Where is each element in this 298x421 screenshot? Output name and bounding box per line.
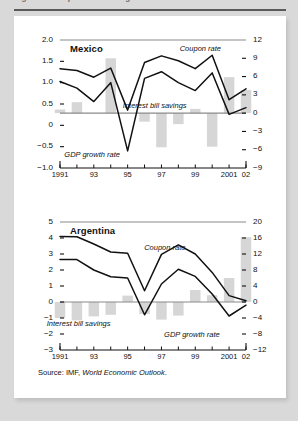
x-axis-tick-label: 95 bbox=[114, 352, 142, 361]
bar-interest-bill-savings bbox=[190, 109, 200, 113]
left-axis-tick-label: 2.0 bbox=[14, 35, 53, 44]
left-axis-tick-label: 3 bbox=[14, 249, 53, 258]
annotation-coupon-rate: Coupon rate bbox=[144, 243, 185, 252]
right-axis-tick-label: 8 bbox=[253, 265, 287, 274]
annotation-coupon-rate: Coupon rate bbox=[180, 44, 221, 53]
annotation-interest-bill-savings: Interest bill savings bbox=[47, 319, 111, 328]
chart-title-argentina: Argentina bbox=[70, 225, 115, 236]
bar-interest-bill-savings bbox=[156, 113, 166, 147]
source-prefix: Source: IMF, bbox=[38, 368, 80, 377]
bar-interest-bill-savings bbox=[122, 296, 132, 302]
chart-title-mexico: Mexico bbox=[70, 43, 103, 54]
left-axis-tick-label: 0 bbox=[14, 120, 53, 129]
bar-interest-bill-savings bbox=[190, 290, 200, 302]
left-axis-tick-label: 4 bbox=[14, 233, 53, 242]
right-axis-tick-label: −8 bbox=[253, 329, 287, 338]
right-axis-tick-label: 0 bbox=[253, 108, 287, 117]
source-publication: World Economic Outlook bbox=[82, 368, 165, 377]
right-axis-tick-label: 6 bbox=[253, 71, 287, 80]
right-axis-tick-label: −6 bbox=[253, 144, 287, 153]
x-axis-tick-label: 95 bbox=[114, 170, 142, 179]
x-axis-tick-label: 02 bbox=[232, 352, 260, 361]
figure-root: Figure 3. Coupon rates and growth rates … bbox=[0, 0, 298, 421]
right-axis-tick-label: 3 bbox=[253, 89, 287, 98]
annotation-interest-bill-savings: Interest bill savings bbox=[123, 101, 187, 110]
bar-interest-bill-savings bbox=[72, 102, 82, 113]
x-axis-tick-label: 1991 bbox=[46, 352, 74, 361]
chart-panel-mexico: Mexico2.01.51.00.50−0.5−1.0129630−3−6−91… bbox=[14, 22, 286, 198]
right-axis-tick-label: 20 bbox=[253, 217, 287, 226]
bar-interest-bill-savings bbox=[105, 302, 115, 315]
bar-interest-bill-savings bbox=[173, 302, 183, 316]
source-suffix: . bbox=[165, 368, 167, 377]
bar-interest-bill-savings bbox=[224, 77, 234, 113]
x-axis-tick-label: 02 bbox=[232, 170, 260, 179]
left-axis-tick-label: 1.5 bbox=[14, 56, 53, 65]
x-axis-tick-label: 1991 bbox=[46, 170, 74, 179]
figure-card: Mexico2.01.51.00.50−0.5−1.0129630−3−6−91… bbox=[14, 16, 286, 398]
right-axis-tick-label: 16 bbox=[253, 233, 287, 242]
annotation-gdp-growth-rate: GDP growth rate bbox=[164, 330, 220, 339]
line-gdp-growth-rate bbox=[60, 72, 246, 151]
left-axis-tick-label: 5 bbox=[14, 217, 53, 226]
x-axis-tick-label: 97 bbox=[147, 170, 175, 179]
right-axis-tick-label: 12 bbox=[253, 35, 287, 44]
right-axis-tick-label: 0 bbox=[253, 297, 287, 306]
right-axis-tick-label: 4 bbox=[253, 281, 287, 290]
bar-interest-bill-savings bbox=[173, 113, 183, 124]
source-note: Source: IMF, World Economic Outlook. bbox=[38, 368, 167, 377]
left-axis-tick-label: −2 bbox=[14, 329, 53, 338]
bar-interest-bill-savings bbox=[72, 302, 82, 320]
right-axis-tick-label: −4 bbox=[253, 313, 287, 322]
x-axis-tick-label: 99 bbox=[181, 170, 209, 179]
right-axis-tick-label: 12 bbox=[253, 249, 287, 258]
left-axis-tick-label: 0.5 bbox=[14, 99, 53, 108]
bar-interest-bill-savings bbox=[207, 113, 217, 147]
bar-interest-bill-savings bbox=[89, 302, 99, 316]
right-axis-tick-label: −3 bbox=[253, 126, 287, 135]
right-axis-tick-label: 9 bbox=[253, 53, 287, 62]
bar-interest-bill-savings bbox=[55, 302, 65, 318]
bar-interest-bill-savings bbox=[139, 113, 149, 122]
bar-interest-bill-savings bbox=[156, 302, 166, 320]
chart-panel-argentina: Argentina543210−1−2−3201612840−4−8−12199… bbox=[14, 204, 286, 380]
annotation-gdp-growth-rate: GDP growth rate bbox=[64, 150, 120, 159]
line-gdp-growth-rate bbox=[60, 260, 246, 316]
figure-cut-title: Figure 3. Coupon rates and growth rates bbox=[14, 0, 176, 2]
left-axis-tick-label: 2 bbox=[14, 265, 53, 274]
header-rule bbox=[14, 9, 286, 11]
x-axis-tick-label: 93 bbox=[80, 352, 108, 361]
x-axis-tick-label: 93 bbox=[80, 170, 108, 179]
x-axis-tick-label: 97 bbox=[147, 352, 175, 361]
x-axis-tick-label: 99 bbox=[181, 352, 209, 361]
left-axis-tick-label: −0.5 bbox=[14, 141, 53, 150]
left-axis-tick-label: 1.0 bbox=[14, 77, 53, 86]
left-axis-tick-label: 1 bbox=[14, 281, 53, 290]
left-axis-tick-label: 0 bbox=[14, 297, 53, 306]
